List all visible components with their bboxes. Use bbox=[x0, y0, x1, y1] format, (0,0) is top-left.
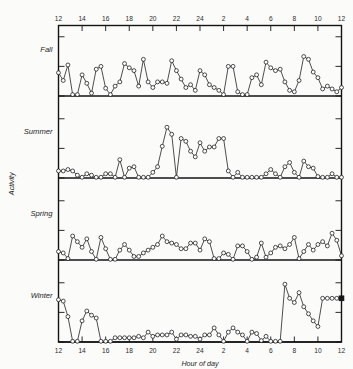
data-point-fall bbox=[123, 62, 127, 66]
data-point-fall bbox=[292, 90, 296, 94]
data-point-winter bbox=[85, 309, 89, 313]
data-point-summer bbox=[269, 168, 273, 172]
data-point-spring bbox=[123, 243, 127, 247]
data-point-fall bbox=[127, 66, 131, 70]
data-point-summer bbox=[311, 166, 315, 170]
data-point-summer bbox=[340, 175, 344, 179]
data-point-winter bbox=[156, 333, 160, 337]
data-point-fall bbox=[283, 80, 287, 84]
data-point-spring bbox=[269, 251, 273, 255]
x-tick-label-top: 18 bbox=[126, 15, 134, 22]
data-point-summer bbox=[151, 170, 155, 174]
data-point-spring bbox=[141, 251, 145, 255]
data-point-spring bbox=[226, 252, 230, 256]
panel-label-spring: Spring bbox=[31, 209, 54, 218]
x-axis-title-text: Hour of day bbox=[181, 359, 219, 368]
data-point-spring bbox=[127, 248, 131, 252]
data-point-winter bbox=[278, 339, 282, 343]
data-point-fall bbox=[321, 87, 325, 91]
data-point-fall bbox=[269, 66, 273, 70]
data-point-summer bbox=[274, 172, 278, 176]
data-point-spring bbox=[179, 247, 183, 251]
data-point-summer bbox=[212, 145, 216, 149]
data-point-spring bbox=[203, 237, 207, 241]
data-point-summer bbox=[123, 175, 127, 179]
data-point-spring bbox=[340, 254, 344, 258]
data-point-spring bbox=[66, 257, 70, 261]
data-point-fall bbox=[189, 83, 193, 87]
data-point-summer bbox=[207, 145, 211, 149]
data-point-winter bbox=[297, 291, 301, 295]
data-point-fall bbox=[90, 91, 94, 95]
data-point-spring bbox=[174, 243, 178, 247]
data-point-fall bbox=[241, 93, 245, 97]
data-point-winter bbox=[207, 333, 211, 337]
data-point-summer bbox=[198, 141, 202, 145]
data-point-summer bbox=[250, 175, 254, 179]
data-point-winter bbox=[127, 336, 131, 340]
x-tick-label-bottom: 8 bbox=[292, 347, 296, 354]
data-point-summer bbox=[137, 175, 141, 179]
data-point-winter bbox=[212, 326, 216, 330]
data-point-spring bbox=[146, 248, 150, 252]
data-point-spring bbox=[264, 255, 268, 259]
data-point-summer bbox=[264, 172, 268, 176]
data-point-summer bbox=[174, 175, 178, 179]
data-point-summer bbox=[66, 168, 70, 172]
data-point-winter bbox=[71, 339, 75, 343]
data-point-fall bbox=[316, 76, 320, 80]
data-point-fall bbox=[264, 60, 268, 64]
data-point-summer bbox=[255, 175, 259, 179]
data-point-fall bbox=[198, 69, 202, 73]
data-point-fall bbox=[212, 86, 216, 90]
data-point-fall bbox=[75, 93, 79, 97]
data-point-winter bbox=[325, 296, 329, 300]
panel-label-winter: Winter bbox=[31, 291, 53, 300]
data-point-summer bbox=[108, 172, 112, 176]
x-tick-label-top: 14 bbox=[78, 15, 86, 22]
data-point-winter bbox=[226, 330, 230, 334]
data-point-spring bbox=[57, 250, 61, 254]
data-point-fall bbox=[99, 64, 103, 68]
data-point-summer bbox=[231, 175, 235, 179]
data-point-fall bbox=[231, 64, 235, 68]
data-point-winter bbox=[90, 313, 94, 317]
data-point-winter bbox=[269, 339, 273, 343]
data-point-spring bbox=[255, 255, 259, 259]
data-point-spring bbox=[330, 231, 334, 235]
data-point-summer bbox=[193, 155, 197, 159]
data-point-fall bbox=[222, 93, 226, 97]
data-point-summer bbox=[307, 165, 311, 169]
data-point-winter bbox=[165, 333, 169, 337]
data-point-winter bbox=[132, 336, 136, 340]
data-point-spring bbox=[80, 245, 84, 249]
data-point-spring bbox=[274, 245, 278, 249]
x-tick-label-bottom: 4 bbox=[245, 347, 249, 354]
data-point-fall bbox=[170, 59, 174, 63]
data-point-spring bbox=[212, 257, 216, 261]
data-point-summer bbox=[222, 137, 226, 141]
data-point-winter bbox=[203, 333, 207, 337]
data-point-spring bbox=[207, 240, 211, 244]
data-point-winter bbox=[259, 339, 263, 343]
data-point-fall bbox=[156, 80, 160, 84]
data-point-fall bbox=[245, 93, 249, 97]
data-point-spring bbox=[193, 241, 197, 245]
data-point-fall bbox=[165, 81, 169, 85]
data-point-summer bbox=[236, 170, 240, 174]
data-point-spring bbox=[297, 257, 301, 261]
x-tick-label-top: 4 bbox=[245, 15, 249, 22]
data-point-fall bbox=[118, 80, 122, 84]
data-point-spring bbox=[302, 250, 306, 254]
data-point-winter bbox=[104, 339, 108, 343]
x-tick-label-top: 6 bbox=[269, 15, 273, 22]
data-point-winter bbox=[113, 336, 117, 340]
data-point-spring bbox=[278, 244, 282, 248]
data-point-summer bbox=[141, 175, 145, 179]
x-tick-label-bottom: 20 bbox=[149, 347, 157, 354]
data-point-spring bbox=[335, 238, 339, 242]
data-point-winter bbox=[288, 296, 292, 300]
data-point-winter bbox=[184, 333, 188, 337]
data-point-spring bbox=[250, 257, 254, 261]
data-point-winter bbox=[137, 334, 141, 338]
